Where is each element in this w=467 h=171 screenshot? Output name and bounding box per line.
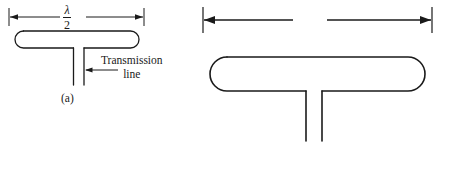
callout-leader-arrowhead-a — [85, 68, 93, 73]
fraction-numerator: λ — [62, 4, 72, 17]
panel-b: λ/2 (b) — [190, 0, 467, 171]
panel-a: λ 2 Transmission line (a) — [0, 0, 190, 171]
figure-root: λ 2 Transmission line (a) — [0, 0, 467, 171]
dimension-arrowhead-right-b — [420, 16, 431, 24]
callout-line-2: line — [101, 68, 163, 82]
panel-a-drawing — [0, 0, 190, 171]
stadium-outline-right-a — [24, 31, 140, 48]
lambda-over-two-fraction: λ 2 — [62, 4, 72, 31]
dimension-arrowhead-left-a — [10, 14, 18, 20]
stadium-outline-left-b — [210, 57, 306, 91]
caption-a: (a) — [61, 93, 74, 105]
panel-b-drawing — [190, 0, 467, 171]
stadium-outline-right-b — [227, 57, 425, 91]
callout-line-1: Transmission — [101, 54, 163, 66]
stadium-outline-left-a — [15, 31, 74, 48]
transmission-line-callout: Transmission line — [101, 54, 163, 81]
fraction-denominator: 2 — [62, 18, 72, 31]
dimension-label-a: λ 2 — [62, 4, 72, 31]
dimension-arrowhead-left-b — [204, 16, 215, 24]
dimension-arrowhead-right-a — [135, 14, 143, 20]
